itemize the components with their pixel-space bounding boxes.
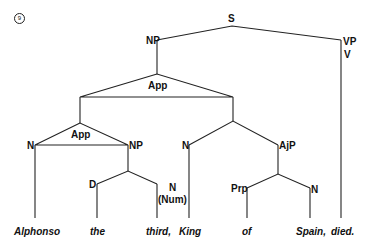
word-died: died. [331, 227, 354, 237]
node-v: V [344, 50, 351, 60]
node-prp: Prp [231, 184, 248, 194]
node-np-inner: NP [129, 141, 143, 151]
word-of: of [242, 227, 251, 237]
node-app-inner: App [71, 130, 90, 140]
node-d: D [89, 180, 96, 190]
node-ajp: AjP [279, 141, 296, 151]
node-s: S [228, 14, 235, 24]
word-king: King [179, 227, 201, 237]
node-num: (Num) [158, 195, 187, 205]
node-n-spain: N [311, 185, 318, 195]
node-app-top: App [148, 81, 167, 91]
word-alphonso: Alphonso [14, 227, 60, 237]
word-third: third, [146, 227, 171, 237]
node-np-top: NP [146, 36, 160, 46]
tree-lines [0, 0, 374, 251]
node-n-alphonso: N [27, 141, 34, 151]
node-n-num: N [169, 183, 176, 193]
word-spain: Spain, [296, 227, 326, 237]
word-the: the [90, 227, 105, 237]
node-vp: VP [343, 37, 356, 47]
node-n-king: N [182, 141, 189, 151]
